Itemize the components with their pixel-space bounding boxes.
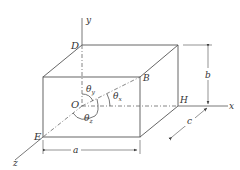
point-e-label: E bbox=[33, 131, 42, 142]
y-axis-label: y bbox=[85, 15, 92, 25]
z-axis-label: z bbox=[12, 158, 18, 168]
theta-x-arc bbox=[107, 94, 110, 106]
origin-label: O bbox=[71, 99, 79, 110]
point-b-label: B bbox=[142, 73, 150, 83]
box-edges bbox=[43, 45, 178, 137]
x-axis-label: x bbox=[229, 101, 234, 111]
dim-a-label: a bbox=[73, 145, 78, 155]
theta-y-label: θy bbox=[86, 84, 95, 96]
theta-x-label: θx bbox=[113, 91, 122, 102]
hidden-edges bbox=[43, 45, 178, 137]
dim-c-label: c bbox=[187, 116, 192, 126]
theta-z-label: θz bbox=[84, 113, 93, 124]
diagram-stage: y x z D B E H O θy θx θz a b c bbox=[0, 0, 240, 170]
point-d-label: D bbox=[70, 40, 79, 51]
theta-y-arc bbox=[82, 94, 93, 101]
dim-b-label: b bbox=[205, 70, 211, 80]
axes bbox=[15, 18, 228, 160]
point-h-label: H bbox=[179, 95, 188, 105]
box-diagram: y x z D B E H O θy θx θz a b c bbox=[0, 0, 240, 170]
